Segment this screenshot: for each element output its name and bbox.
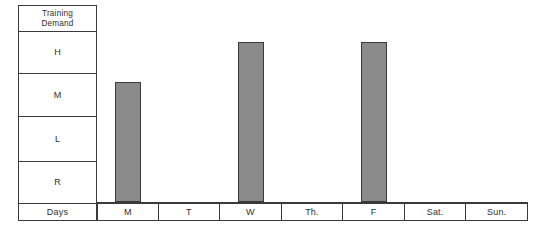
day-cell-label: W	[246, 207, 255, 217]
axis-level-h: H	[19, 31, 96, 73]
axis-label-column: Training Demand H M L R Days	[18, 5, 97, 221]
day-cell-label: F	[371, 207, 377, 217]
day-cell-sun: Sun.	[466, 203, 528, 221]
days-axis-row: MTWTh.FSat.Sun.	[97, 203, 528, 221]
day-cell-thu: Th.	[282, 203, 344, 221]
day-cell-label: Sat.	[427, 207, 444, 217]
day-cell-sat: Sat.	[405, 203, 467, 221]
axis-level-l: L	[19, 116, 96, 161]
day-cell-label: Th.	[305, 207, 319, 217]
axis-level-m-label: M	[54, 90, 62, 101]
axis-title-line2: Demand	[41, 19, 73, 28]
axis-level-r-label: R	[54, 177, 61, 188]
training-demand-bar-chart: Training Demand H M L R Days MTWTh.FSat.…	[0, 0, 546, 239]
day-cell-fri: F	[343, 203, 405, 221]
axis-level-r: R	[19, 161, 96, 203]
axis-title-training-demand: Training Demand	[19, 6, 96, 31]
day-cell-wed: W	[220, 203, 282, 221]
axis-level-h-label: H	[54, 47, 61, 58]
axis-title-line1: Training	[42, 9, 73, 18]
plot-area	[97, 5, 528, 202]
axis-level-l-label: L	[55, 134, 60, 145]
bar-fri	[361, 42, 387, 202]
day-cell-label: M	[124, 207, 132, 217]
day-cell-tue: T	[159, 203, 221, 221]
bar-wed	[238, 42, 264, 202]
bar-mon	[115, 82, 141, 202]
day-cell-mon: M	[97, 203, 159, 221]
day-cell-label: Sun.	[487, 207, 506, 217]
axis-days-row-label: Days	[19, 203, 96, 220]
axis-days-label: Days	[47, 207, 68, 218]
day-cell-label: T	[186, 207, 192, 217]
axis-level-m: M	[19, 73, 96, 116]
